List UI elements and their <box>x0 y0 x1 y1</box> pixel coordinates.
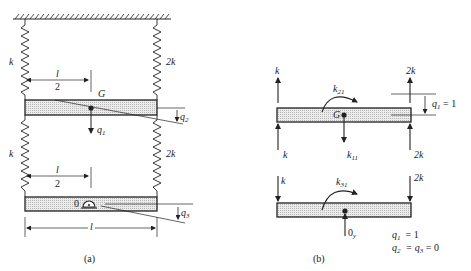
label-q3: q3 <box>181 208 190 220</box>
label-spring-2k-lower: 2k <box>166 149 175 159</box>
label-half-l-num-upper: l <box>56 69 59 79</box>
spring-upper-left <box>21 19 29 100</box>
label-b-2k-bottom-right: 2k <box>414 150 423 160</box>
label-b-g: G <box>333 110 340 120</box>
label-k31: k31 <box>336 177 347 189</box>
ceiling-support <box>13 14 171 19</box>
spring-lower-right <box>153 115 161 197</box>
label-b-k-lower-left: k <box>281 176 285 186</box>
label-pivot-0: 0 <box>74 199 79 209</box>
label-half-l-den-lower: 2 <box>55 179 60 189</box>
pivot-point <box>342 208 347 213</box>
label-q2: q2 <box>180 112 189 124</box>
label-0y: 0y <box>348 228 356 240</box>
caption-a: (a) <box>84 254 95 264</box>
label-spring-k-upper: k <box>9 57 13 67</box>
label-half-l-num-lower: l <box>56 165 59 175</box>
spring-lower-left <box>21 115 29 197</box>
caption-b: (b) <box>313 254 325 264</box>
label-q1-equals-1: q1 = 1 <box>432 99 456 111</box>
label-k11: k11 <box>347 150 358 162</box>
label-half-l-den-upper: 2 <box>55 82 60 92</box>
label-condition-q2-q3: q2 = q3 = 0 <box>392 243 439 255</box>
spring-upper-right <box>153 19 161 100</box>
label-k21: k21 <box>333 84 344 96</box>
label-spring-2k-upper: 2k <box>166 57 175 67</box>
label-spring-k-lower: k <box>9 149 13 159</box>
label-g: G <box>98 89 105 99</box>
label-b-2k-lower-right: 2k <box>414 173 423 183</box>
label-b-k-bottom-left: k <box>283 150 287 160</box>
label-condition-q1: q1 = 1 <box>392 230 419 242</box>
label-b-k-top-left: k <box>275 66 279 76</box>
label-q1: q1 <box>97 125 106 137</box>
label-length-l: l <box>88 222 95 232</box>
label-b-2k-top-right: 2k <box>406 66 415 76</box>
